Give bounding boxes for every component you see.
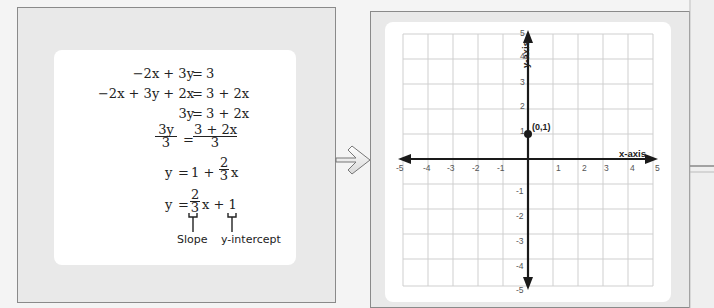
next-panel-edge [0,0,714,308]
